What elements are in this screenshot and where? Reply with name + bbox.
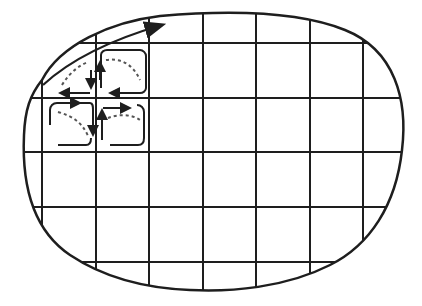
cell-top-right xyxy=(100,50,146,93)
grid-boundary-diagram xyxy=(0,0,422,306)
diagram-canvas xyxy=(0,0,422,306)
grid-mesh xyxy=(0,0,422,306)
cell-bottom-left xyxy=(50,103,93,145)
cell-bottom-right xyxy=(102,105,144,145)
